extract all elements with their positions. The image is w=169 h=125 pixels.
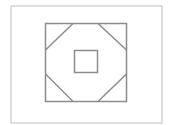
diagonal-bottom-left [46, 74, 74, 102]
outer-square [46, 24, 127, 102]
diagonal-bottom-right [98, 74, 127, 102]
diagonal-top-right [98, 24, 127, 51]
geometric-diagram [0, 0, 169, 125]
diagonal-top-left [46, 24, 74, 51]
corner-diagonals [46, 24, 127, 102]
center-square [75, 51, 98, 73]
